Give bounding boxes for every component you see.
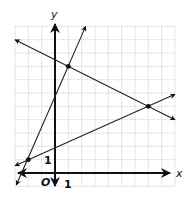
origin-label: O [41,176,50,189]
intersection-point [146,104,151,109]
decreasing-line [15,40,175,120]
coordinate-graph: x y O 1 1 [0,0,188,203]
intersection-point [66,64,71,69]
y-tick-label: 1 [44,154,52,167]
y-axis-label: y [50,8,58,21]
x-tick-label: 1 [64,178,72,191]
intersection-point [26,157,31,162]
grid [15,26,175,186]
x-axis-label: x [175,167,183,180]
